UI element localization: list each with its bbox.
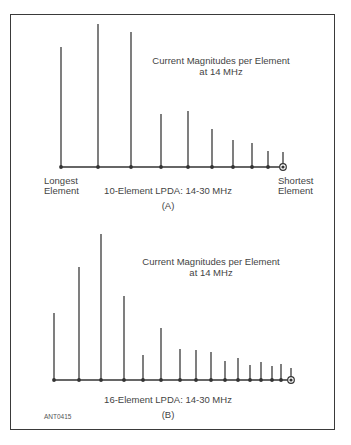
element-node: [266, 165, 270, 169]
element-node: [259, 378, 263, 382]
element-node: [159, 165, 163, 169]
element-node: [194, 378, 198, 382]
figure-id-label: ANT0415: [44, 412, 71, 422]
element-node: [52, 378, 56, 382]
stem-plots: [0, 0, 351, 445]
panel-a-caption: 10-Element LPDA: 14-30 MHz: [104, 186, 232, 196]
element-node: [178, 378, 182, 382]
panel-a-title-line1: Current Magnitudes per Element: [152, 56, 289, 66]
element-node: [231, 165, 235, 169]
element-node: [236, 378, 240, 382]
element-node: [250, 165, 254, 169]
element-node: [129, 165, 133, 169]
stem-plot-a: [59, 24, 286, 170]
panel-b-title-line2: at 14 MHz: [189, 268, 232, 278]
element-node: [209, 378, 213, 382]
panel-a-title-line2: at 14 MHz: [199, 67, 242, 77]
element-node: [141, 378, 145, 382]
element-node: [99, 378, 103, 382]
feed-point-dot: [281, 165, 284, 168]
feed-point-dot: [289, 378, 292, 381]
element-node: [223, 378, 227, 382]
element-node: [59, 165, 63, 169]
element-node: [77, 378, 81, 382]
element-node: [210, 165, 214, 169]
shortest-element-label-line2: Element: [278, 186, 313, 196]
element-node: [159, 378, 163, 382]
panel-b-caption: 16-Element LPDA: 14-30 MHz: [104, 395, 232, 405]
element-node: [122, 378, 126, 382]
element-node: [279, 378, 283, 382]
longest-element-label-line2: Element: [44, 186, 79, 196]
panel-b-title-line1: Current Magnitudes per Element: [142, 257, 279, 267]
element-node: [186, 165, 190, 169]
element-node: [96, 165, 100, 169]
element-node: [248, 378, 252, 382]
panel-a-label: (A): [162, 201, 175, 211]
panel-b-label: (B): [162, 410, 175, 420]
element-node: [270, 378, 274, 382]
